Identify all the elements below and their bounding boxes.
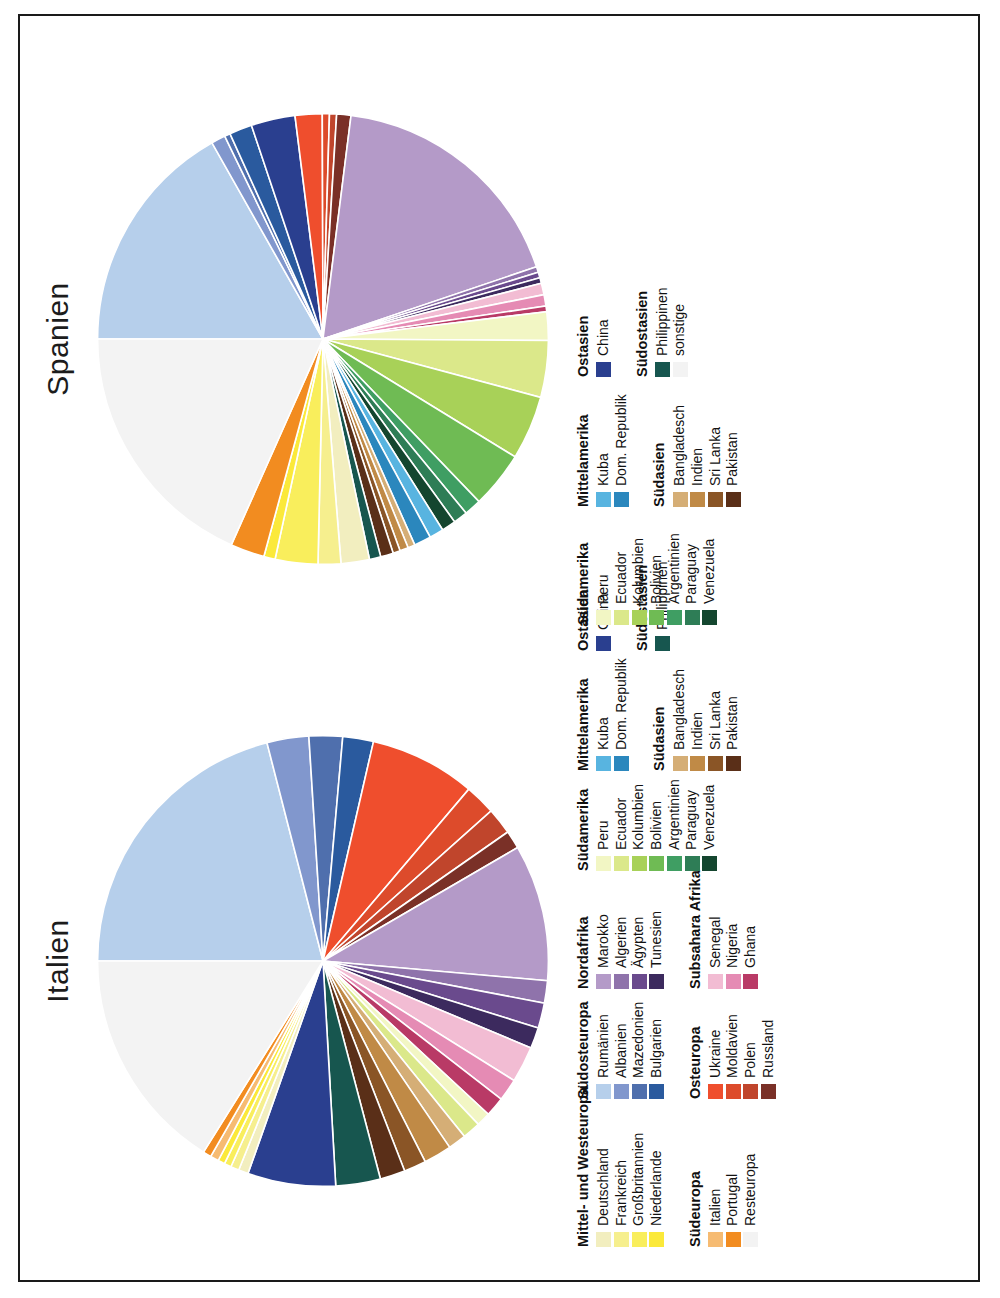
legend-item[interactable]: Kuba <box>596 377 612 507</box>
legend-item-label: Ukraine <box>708 1030 724 1078</box>
legend-item[interactable]: Ägypten <box>631 871 647 989</box>
legend-item[interactable]: Dom. Republik <box>614 377 630 507</box>
legend-item-label: Resteuropa <box>743 1154 759 1226</box>
legend-item[interactable]: Venezuela <box>702 771 718 871</box>
legend-item[interactable]: Pakistan <box>725 377 741 507</box>
legend-item[interactable]: Resteuropa <box>743 1099 759 1247</box>
legend-item[interactable]: Marokko <box>596 871 612 989</box>
legend-item[interactable]: Nigeria <box>725 871 741 989</box>
panel-title-italien: Italien <box>41 661 75 1261</box>
legend-item-label: Sri Lanka <box>708 691 724 750</box>
legend-column: MittelamerikaKubaDom. RepublikSüdasienBa… <box>575 377 763 507</box>
legend-item[interactable]: Albanien <box>614 989 630 1099</box>
legend-item[interactable]: Indien <box>690 651 706 771</box>
legend-group-title: Mittelamerika <box>575 377 591 507</box>
legend-item[interactable]: Ghana <box>743 871 759 989</box>
legend-item[interactable]: Argentinien <box>667 771 683 871</box>
legend-item[interactable]: Kuba <box>596 651 612 771</box>
legend-item-label: Venezuela <box>702 539 718 604</box>
legend-group-title: Nordafrika <box>575 871 591 989</box>
legend-group-title: Osteuropa <box>687 989 703 1099</box>
legend-swatch-icon <box>673 362 688 377</box>
legend-item[interactable]: Rumänien <box>596 989 612 1099</box>
legend-item[interactable]: Ecuador <box>614 771 630 871</box>
legend-item[interactable]: Argentinien <box>667 507 683 625</box>
legend-swatch-icon <box>614 756 629 771</box>
legend-item[interactable]: China <box>596 257 612 377</box>
legend-item[interactable]: Moldavien <box>725 989 741 1099</box>
legend-swatch-icon <box>596 756 611 771</box>
legend-item[interactable]: Pakistan <box>725 651 741 771</box>
legend-item-label: Portugal <box>725 1174 741 1226</box>
legend-swatch-icon <box>702 856 717 871</box>
legend-group-title: Südasien <box>651 377 667 507</box>
legend-item-label: Bangladesch <box>672 669 688 750</box>
panel-italien: Italien Mittel- und WesteuropaDeutschlan… <box>35 661 965 1261</box>
legend-item[interactable]: Kolumbien <box>631 507 647 625</box>
legend-item[interactable]: Deutschland <box>596 1099 612 1247</box>
legend-item[interactable]: Bolivien <box>649 507 665 625</box>
legend-item[interactable]: Paraguay <box>684 507 700 625</box>
legend-item[interactable]: Peru <box>596 771 612 871</box>
legend-item-label: Frankreich <box>614 1160 630 1226</box>
legend-item-label: Venezuela <box>702 785 718 850</box>
legend-swatch-icon <box>743 974 758 989</box>
legend-group-title: Südamerika <box>575 771 591 871</box>
legend-item-label: Dom. Republik <box>614 658 630 750</box>
legend-item[interactable]: Venezuela <box>702 507 718 625</box>
legend-item[interactable]: Portugal <box>725 1099 741 1247</box>
legend-item[interactable]: Frankreich <box>614 1099 630 1247</box>
legend-group: SüdostasienPhilippinensonstige <box>634 257 688 377</box>
panel-title-spanien: Spanien <box>41 39 75 639</box>
legend-item[interactable]: Sri Lanka <box>708 377 724 507</box>
legend-column: Mittel- und WesteuropaDeutschlandFrankre… <box>575 1099 781 1247</box>
legend-item[interactable]: Russland <box>761 989 777 1099</box>
legend-item[interactable]: Peru <box>596 507 612 625</box>
legend-item-label: Indien <box>690 448 706 486</box>
legend-item[interactable]: Bangladesch <box>672 377 688 507</box>
pie-svg-italien <box>93 731 553 1191</box>
legend-item[interactable]: Dom. Republik <box>614 651 630 771</box>
legend-item[interactable]: Ukraine <box>708 989 724 1099</box>
legend-group: SüdasienBangladeschIndienSri LankaPakist… <box>651 651 741 771</box>
legend-swatch-icon <box>596 362 611 377</box>
legend-item-label: Bolivien <box>649 555 665 604</box>
legend-item[interactable]: Kolumbien <box>631 771 647 871</box>
legend-item[interactable]: sonstige <box>672 257 688 377</box>
legend-swatch-icon <box>708 1084 723 1099</box>
legend-item[interactable]: Tunesien <box>649 871 665 989</box>
legend-swatch-icon <box>708 492 723 507</box>
legend-swatch-icon <box>685 856 700 871</box>
legend-item[interactable]: Philippinen <box>655 257 671 377</box>
legend-swatch-icon <box>655 362 670 377</box>
legend-item[interactable]: Indien <box>690 377 706 507</box>
legend-swatch-icon <box>632 1084 647 1099</box>
legend-item[interactable]: Sri Lanka <box>708 651 724 771</box>
legend-item-label: Marokko <box>596 914 612 968</box>
legend-column: NordafrikaMarokkoAlgerienÄgyptenTunesien… <box>575 871 781 989</box>
legend-item-label: Niederlande <box>649 1151 665 1227</box>
legend-item[interactable]: Mazedonien <box>631 989 647 1099</box>
legend-item[interactable]: Senegal <box>708 871 724 989</box>
legend-item[interactable]: Bolivien <box>649 771 665 871</box>
legend-item-label: Tunesien <box>649 911 665 968</box>
legend-swatch-icon <box>614 974 629 989</box>
legend-swatch-icon <box>702 610 717 625</box>
legend-item[interactable]: Algerien <box>614 871 630 989</box>
legend-swatch-icon <box>726 492 741 507</box>
legend-swatch-icon <box>649 856 664 871</box>
legend-item-label: Philippinen <box>655 288 671 357</box>
legend-item-label: Algerien <box>614 917 630 968</box>
legend-item[interactable]: Paraguay <box>684 771 700 871</box>
legend-swatch-icon <box>649 1232 664 1247</box>
legend-item[interactable]: Bulgarien <box>649 989 665 1099</box>
legend-group-title: Südostasien <box>634 257 650 377</box>
legend-item[interactable]: Bangladesch <box>672 651 688 771</box>
legend-item[interactable]: Italien <box>708 1099 724 1247</box>
legend-swatch-icon <box>673 756 688 771</box>
legend-swatch-icon <box>632 856 647 871</box>
legend-item[interactable]: Polen <box>743 989 759 1099</box>
legend-item[interactable]: Ecuador <box>614 507 630 625</box>
legend-item[interactable]: Niederlande <box>649 1099 665 1247</box>
legend-item[interactable]: Großbritannien <box>631 1099 647 1247</box>
